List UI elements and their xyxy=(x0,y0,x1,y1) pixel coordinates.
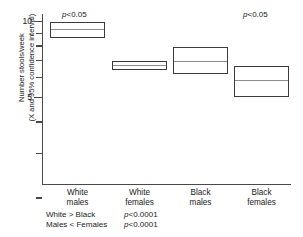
pvalue-rest-2: <0.05 xyxy=(247,10,267,19)
category-label-line: males xyxy=(42,198,113,208)
y-axis-major-tick xyxy=(34,21,42,22)
footnote-pvalue-1: <0.0001 xyxy=(128,210,157,219)
y-axis-minor-tick xyxy=(36,45,42,46)
category-label-white-males: Whitemales xyxy=(42,188,113,207)
footnote: White > Blackp<0.0001 Males < Femalesp<0… xyxy=(46,210,158,230)
footnote-pvalue-2: <0.0001 xyxy=(128,220,157,229)
pvalue-annotation-white-males: p<0.05 xyxy=(62,10,87,19)
footnote-comparison-2: Males < Females xyxy=(46,220,124,230)
mean-line-white-males xyxy=(51,29,103,30)
stool-frequency-chart: Number stools/week (X and 95% confidence… xyxy=(0,0,303,237)
category-label-line: females xyxy=(226,198,297,208)
y-axis-major-tick xyxy=(34,97,42,98)
y-axis-tick-label-5: 5 xyxy=(0,93,32,102)
footnote-row-1: White > Blackp<0.0001 xyxy=(46,210,158,220)
footnote-row-2: Males < Femalesp<0.0001 xyxy=(46,220,158,230)
y-axis-minor-tick xyxy=(36,77,42,78)
ci-box-black-females xyxy=(234,66,289,97)
category-label-black-females: Blackfemales xyxy=(226,188,297,207)
y-axis-minor-tick xyxy=(36,121,42,122)
y-axis-minor-tick xyxy=(36,33,42,34)
category-label-line: Black xyxy=(226,188,297,198)
category-label-line: White xyxy=(42,188,113,198)
mean-line-black-males xyxy=(174,61,226,62)
mean-line-white-females xyxy=(113,65,165,66)
y-axis-minor-tick xyxy=(36,60,42,61)
y-axis-tick-label-10: 10 xyxy=(0,17,32,26)
y-axis-minor-tick xyxy=(36,153,42,154)
y-axis-line xyxy=(42,14,43,184)
x-axis-line xyxy=(42,184,291,185)
mean-line-black-females xyxy=(235,80,287,81)
footnote-comparison-1: White > Black xyxy=(46,210,124,220)
pvalue-annotation-black-females: p<0.05 xyxy=(243,10,268,19)
pvalue-rest-1: <0.05 xyxy=(66,10,86,19)
